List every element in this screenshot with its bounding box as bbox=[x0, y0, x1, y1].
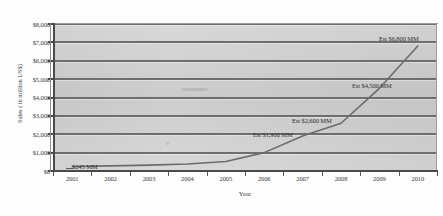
data-label-2010: Est $6,800 MM bbox=[379, 35, 419, 43]
y-tick-label-7000: $7,000 bbox=[4, 39, 50, 46]
y-axis-line bbox=[53, 23, 55, 172]
plot-border-right bbox=[436, 23, 437, 172]
x-tick-mark-10 bbox=[437, 172, 438, 176]
y-tick-label-2000: $2,000 bbox=[4, 131, 50, 138]
data-label-2001: $245 MM bbox=[72, 163, 97, 171]
y-axis-tick-labels: $8,000$7,000$6,000$5,000$4,000$3,000$2,0… bbox=[0, 0, 50, 216]
x-tick-label-2010: 2010 bbox=[411, 175, 424, 183]
plot-area bbox=[53, 24, 437, 171]
x-tick-label-2009: 2009 bbox=[373, 175, 386, 183]
data-label-2009: Est $4,500 MM bbox=[352, 82, 392, 90]
x-tick-label-2006: 2006 bbox=[258, 175, 271, 183]
sales-series-line bbox=[53, 24, 437, 171]
y-tick-label-6000: $6,000 bbox=[4, 57, 50, 64]
sales-forecast-line-chart: Sales ( in million US$) $8,000$7,000$6,0… bbox=[0, 0, 443, 216]
y-axis-outer-line bbox=[50, 23, 51, 172]
x-axis-title: Year bbox=[53, 190, 437, 197]
y-tick-label-4000: $4,000 bbox=[4, 94, 50, 101]
x-tick-label-2001: 2001 bbox=[66, 175, 79, 183]
x-tick-label-2002: 2002 bbox=[104, 175, 117, 183]
x-tick-label-2004: 2004 bbox=[181, 175, 194, 183]
y-tick-label-5000: $5,000 bbox=[4, 76, 50, 83]
y-tick-label-3000: $3,000 bbox=[4, 112, 50, 119]
x-tick-label-2007: 2007 bbox=[296, 175, 309, 183]
y-tick-label-8000: $8,000 bbox=[4, 21, 50, 28]
data-label-2007: Est $1,900 MM bbox=[253, 131, 293, 139]
x-tick-label-2005: 2005 bbox=[219, 175, 232, 183]
x-tick-label-2003: 2003 bbox=[143, 175, 156, 183]
y-tick-label-1000: $1,000 bbox=[4, 149, 50, 156]
data-label-2008: Est $2,600 MM bbox=[292, 117, 332, 125]
plot-border-top bbox=[53, 23, 438, 24]
y-tick-label-0: $0 bbox=[4, 168, 50, 175]
x-tick-label-2008: 2008 bbox=[335, 175, 348, 183]
x-axis-tick-labels: 2001200220032004200520062007200820092010 bbox=[53, 175, 437, 187]
